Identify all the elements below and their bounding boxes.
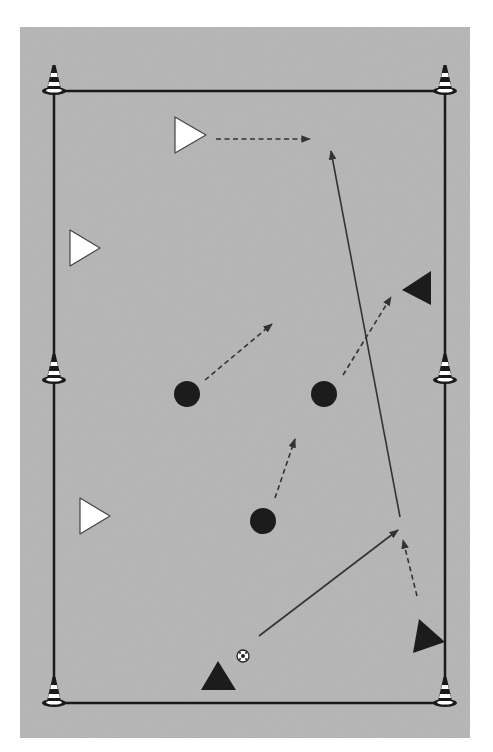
defender-2-icon [311,381,337,407]
defender-3-icon [250,508,276,534]
soccer-ball-icon [237,650,249,662]
pitch-background [20,27,470,738]
drill-diagram [0,0,493,752]
defender-1-icon [174,381,200,407]
